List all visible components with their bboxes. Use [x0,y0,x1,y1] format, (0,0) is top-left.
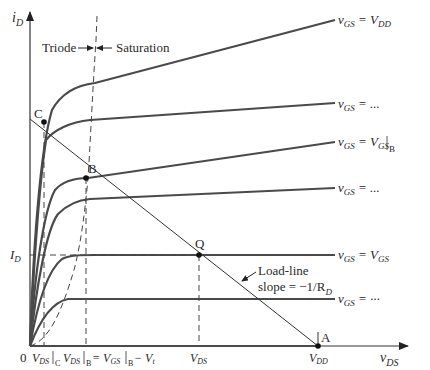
vds-b-label: VDS B = VGS B − Vt [63,351,155,368]
curve-label-vgs-b: vGS = VGS B [338,134,395,154]
y-axis-label: iD [12,10,24,28]
label-c: C [34,106,43,121]
svg-text:B: B [128,359,133,368]
svg-text:− Vt: − Vt [134,351,155,366]
curve-vgs-vdd [30,20,335,346]
svg-text:vGS = ...: vGS = ... [338,96,380,113]
vds-label: VDS [190,351,207,366]
curve-label-2: vGS = ... [338,96,380,113]
point-q [196,252,202,258]
svg-text:VDS: VDS [63,351,80,366]
curve-vgs-2 [30,103,335,346]
saturation-label: Saturation [116,40,170,55]
svg-text:B: B [86,359,91,368]
curve-label-6: vGS = ··· [338,291,380,308]
curve-label-vgs-q: vGS = VGS [338,247,389,264]
curve-label-4: vGS = ... [338,180,380,197]
svg-text:vGS = VDD: vGS = VDD [338,12,391,29]
curve-vgs-b [30,142,335,346]
mosfet-load-line-diagram: iD vDS C B Q A Triode Saturation Load-li… [0,0,430,370]
svg-text:B: B [389,144,395,154]
point-b [83,175,89,181]
load-line-label-2: slope = −1/RD [258,279,332,297]
curve-label-vdd: vGS = VDD [338,12,391,29]
vdd-label: VDD [309,351,328,366]
load-line-pointer [242,272,256,281]
svg-text:vGS = ···: vGS = ··· [338,291,380,308]
load-line-label-1: Load-line [258,263,309,278]
svg-text:VDS: VDS [32,351,49,366]
svg-text:vGS = ...: vGS = ... [338,180,380,197]
svg-text:vGS = VGS: vGS = VGS [338,247,389,264]
point-a [315,343,321,349]
svg-text:C: C [55,359,60,368]
label-q: Q [195,236,205,251]
origin-label: 0 [20,350,27,365]
curve-vgs-6 [30,299,335,346]
svg-text:= VGS: = VGS [92,351,120,366]
triode-label: Triode [42,40,76,55]
svg-text:vGS = VGS: vGS = VGS [338,134,389,151]
label-a: A [321,330,331,345]
x-axis-label: vDS [380,350,398,368]
vds-c-label: VDS C [32,351,60,368]
id-tick-label: ID [9,247,21,264]
load-line [30,119,318,346]
label-b: B [88,161,97,176]
